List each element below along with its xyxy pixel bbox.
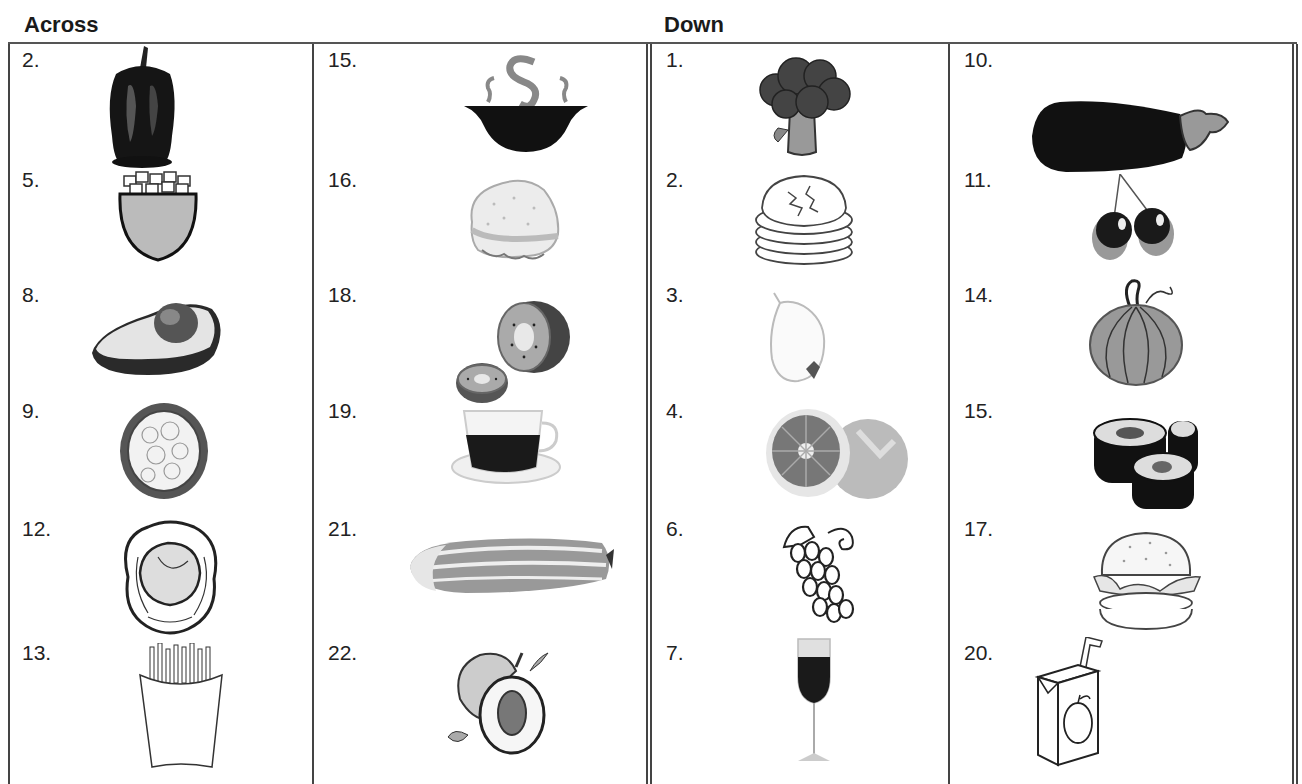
clue-number: 2.	[22, 48, 40, 72]
clue-number: 18.	[328, 283, 357, 307]
french-fries-icon	[136, 643, 226, 769]
clue-number: 14.	[964, 283, 993, 307]
clue-cell: 18.	[314, 279, 646, 395]
eggplant-icon	[1030, 94, 1230, 174]
grapefruit-icon	[762, 407, 912, 503]
clue-cell: 13.	[8, 637, 312, 777]
kiwi-icon	[454, 299, 572, 407]
clue-cell: 14.	[950, 279, 1292, 395]
clue-number: 12.	[22, 517, 51, 541]
juice-box-icon	[1034, 637, 1124, 767]
down-column-1: 1. 2.	[652, 44, 948, 784]
table-border-right	[1292, 44, 1294, 784]
clue-number: 2.	[666, 168, 684, 192]
clue-cell: 17.	[950, 513, 1292, 637]
hamburger-icon	[1090, 531, 1204, 635]
clue-cell: 19.	[314, 395, 646, 513]
across-column-1: 2. 5.	[8, 44, 312, 784]
pancakes-icon	[752, 172, 856, 268]
clue-number: 7.	[666, 641, 684, 665]
down-column-2: 10. 11.	[950, 44, 1292, 784]
clue-cell: 5.	[8, 164, 312, 279]
clue-cell: 15.	[314, 44, 646, 164]
clue-cell: 11.	[950, 164, 1292, 279]
clue-number: 15.	[328, 48, 357, 72]
clue-cell: 22.	[314, 637, 646, 777]
sushi-icon	[1090, 415, 1200, 511]
clue-number: 1.	[666, 48, 684, 72]
clue-cell: 4.	[652, 395, 948, 513]
clue-number: 10.	[964, 48, 993, 72]
clue-number: 17.	[964, 517, 993, 541]
clue-cell: 2.	[652, 164, 948, 279]
clue-number: 21.	[328, 517, 357, 541]
clue-number: 13.	[22, 641, 51, 665]
clue-number: 22.	[328, 641, 357, 665]
clue-cell: 21.	[314, 513, 646, 637]
cherries-icon	[1080, 174, 1180, 278]
clue-number: 3.	[666, 283, 684, 307]
clue-number: 9.	[22, 399, 40, 423]
tea-cup-icon	[450, 405, 568, 485]
clue-number: 6.	[666, 517, 684, 541]
clue-number: 20.	[964, 641, 993, 665]
grapes-icon	[780, 523, 864, 633]
clue-cell: 9.	[8, 395, 312, 513]
avocado-icon	[88, 291, 228, 379]
clue-cell: 20.	[950, 637, 1292, 777]
across-column-2: 15. 16. 18.	[314, 44, 646, 784]
broccoli-icon	[756, 54, 852, 158]
clue-number: 19.	[328, 399, 357, 423]
clue-number: 4.	[666, 399, 684, 423]
clue-number: 15.	[964, 399, 993, 423]
cabbage-icon	[118, 517, 222, 637]
pumpkin-icon	[1086, 277, 1186, 389]
clue-number: 8.	[22, 283, 40, 307]
cucumber-icon	[406, 529, 616, 599]
clue-cell: 12.	[8, 513, 312, 637]
soup-icon	[464, 54, 588, 158]
clue-cell: 2.	[8, 44, 312, 164]
down-heading: Down	[664, 12, 724, 38]
onion-icon	[764, 289, 834, 385]
clue-cell: 8.	[8, 279, 312, 395]
wine-glass-icon	[794, 637, 834, 767]
clue-number: 11.	[964, 168, 992, 192]
cauliflower-icon	[116, 401, 212, 501]
across-heading: Across	[24, 12, 99, 38]
clue-cell: 3.	[652, 279, 948, 395]
clue-number: 16.	[328, 168, 357, 192]
peach-icon	[446, 647, 556, 757]
clue-cell: 1.	[652, 44, 948, 164]
bell-pepper-icon	[106, 46, 178, 170]
clue-cell: 6.	[652, 513, 948, 637]
crossword-clue-table: 2. 5.	[8, 42, 1297, 784]
sandwich-icon	[464, 174, 560, 264]
clue-cell: 16.	[314, 164, 646, 279]
clue-cell: 10.	[950, 44, 1292, 164]
clue-cell: 7.	[652, 637, 948, 777]
clue-number: 5.	[22, 168, 40, 192]
across-down-divider	[646, 44, 648, 784]
clue-cell: 15.	[950, 395, 1292, 513]
bowl-of-cereal-icon	[116, 170, 200, 266]
